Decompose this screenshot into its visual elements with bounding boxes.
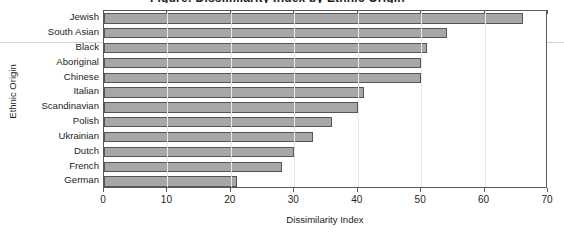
x-tick-top-20 bbox=[230, 10, 231, 14]
x-tick-label-30: 30 bbox=[273, 194, 313, 205]
bar-dutch bbox=[104, 147, 294, 157]
bar-chinese bbox=[104, 73, 421, 83]
y-tick-label-aboriginal: Aboriginal bbox=[3, 57, 99, 67]
x-tick-label-40: 40 bbox=[337, 194, 377, 205]
bar-row bbox=[104, 85, 546, 100]
x-tick-top-0 bbox=[103, 10, 104, 14]
y-tick-label-scandinavian: Scandinavian bbox=[3, 101, 99, 111]
y-tick-label-black: Black bbox=[3, 42, 99, 52]
y-tick-label-jewish: Jewish bbox=[3, 12, 99, 22]
y-axis-category-labels: JewishSouth AsianBlackAboriginalChineseI… bbox=[0, 10, 99, 188]
x-tick-label-60: 60 bbox=[464, 194, 504, 205]
bar-row bbox=[104, 159, 546, 174]
y-tick-label-french: French bbox=[3, 161, 99, 171]
x-tick-10 bbox=[166, 188, 167, 192]
y-tick-label-german: German bbox=[3, 175, 99, 185]
gridline bbox=[294, 11, 295, 187]
x-tick-50 bbox=[420, 188, 421, 192]
y-tick-label-polish: Polish bbox=[3, 116, 99, 126]
x-tick-label-20: 20 bbox=[210, 194, 250, 205]
y-tick-label-south-asian: South Asian bbox=[3, 27, 99, 37]
x-tick-top-60 bbox=[484, 10, 485, 14]
y-tick-label-dutch: Dutch bbox=[3, 146, 99, 156]
bar-italian bbox=[104, 87, 364, 97]
bar-row bbox=[104, 11, 546, 26]
x-tick-top-30 bbox=[293, 10, 294, 14]
y-tick-label-ukrainian: Ukrainian bbox=[3, 131, 99, 141]
bar-black bbox=[104, 43, 427, 53]
gridline bbox=[358, 11, 359, 187]
x-tick-40 bbox=[357, 188, 358, 192]
x-tick-label-50: 50 bbox=[400, 194, 440, 205]
bar-chart-figure: Figure: Dissimilarity Index by Ethnic Or… bbox=[0, 0, 564, 239]
x-tick-label-70: 70 bbox=[527, 194, 564, 205]
bar-row bbox=[104, 174, 546, 189]
bar-rows bbox=[104, 11, 546, 187]
x-tick-60 bbox=[484, 188, 485, 192]
x-tick-label-0: 0 bbox=[83, 194, 123, 205]
bar-ukrainian bbox=[104, 132, 313, 142]
gridline bbox=[231, 11, 232, 187]
x-tick-top-10 bbox=[166, 10, 167, 14]
x-tick-0 bbox=[103, 188, 104, 192]
bar-row bbox=[104, 56, 546, 71]
x-tick-top-40 bbox=[357, 10, 358, 14]
bar-row bbox=[104, 115, 546, 130]
bar-row bbox=[104, 100, 546, 115]
bar-french bbox=[104, 162, 282, 172]
bar-polish bbox=[104, 117, 332, 127]
figure-title-fragment: Figure: Dissimilarity Index by Ethnic Or… bbox=[150, 0, 450, 3]
y-tick-label-chinese: Chinese bbox=[3, 72, 99, 82]
bar-german bbox=[104, 176, 237, 186]
x-tick-top-50 bbox=[420, 10, 421, 14]
bar-south-asian bbox=[104, 28, 447, 38]
bar-row bbox=[104, 70, 546, 85]
bar-row bbox=[104, 130, 546, 145]
gridline bbox=[167, 11, 168, 187]
x-axis-title: Dissimilarity Index bbox=[103, 214, 547, 225]
bar-row bbox=[104, 26, 546, 41]
x-tick-30 bbox=[293, 188, 294, 192]
bar-row bbox=[104, 41, 546, 56]
gridline bbox=[421, 11, 422, 187]
bar-aboriginal bbox=[104, 58, 421, 68]
y-tick-label-italian: Italian bbox=[3, 86, 99, 96]
x-tick-top-70 bbox=[547, 10, 548, 14]
bar-row bbox=[104, 145, 546, 160]
gridline bbox=[485, 11, 486, 187]
x-tick-label-10: 10 bbox=[146, 194, 186, 205]
plot-area bbox=[103, 10, 547, 188]
x-tick-70 bbox=[547, 188, 548, 192]
x-tick-20 bbox=[230, 188, 231, 192]
